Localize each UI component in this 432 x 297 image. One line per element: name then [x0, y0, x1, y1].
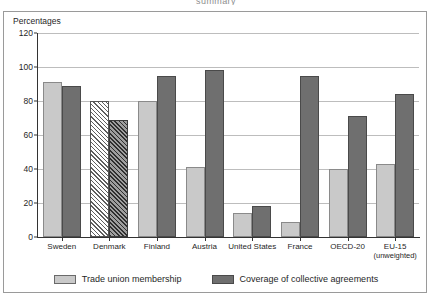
bar-collective-coverage[interactable] — [109, 120, 128, 237]
x-tick-mark — [205, 237, 206, 241]
bar-collective-coverage[interactable] — [62, 86, 81, 237]
bar-union-membership[interactable] — [233, 213, 252, 237]
y-tick-label: 120 — [19, 28, 33, 38]
bar-group — [276, 33, 324, 237]
x-tick-mark — [252, 237, 253, 241]
y-tick-mark — [34, 135, 37, 136]
y-tick-mark — [34, 101, 37, 102]
x-axis-label: Finland — [133, 242, 181, 260]
x-axis-label: OECD-20 — [324, 242, 372, 260]
chart-frame: Percentages 020406080100120 SwedenDenmar… — [3, 11, 427, 293]
y-tick-mark — [34, 33, 37, 34]
bar-group — [86, 33, 134, 237]
bar-union-membership[interactable] — [186, 167, 205, 237]
x-axis-label: France — [276, 242, 324, 260]
bar-union-membership[interactable] — [138, 101, 157, 237]
bar-collective-coverage[interactable] — [252, 206, 271, 237]
bar-group — [133, 33, 181, 237]
bar-union-membership[interactable] — [329, 169, 348, 237]
bar-group — [181, 33, 229, 237]
x-tick-mark — [348, 237, 349, 241]
x-axis-label-sub: (unweighted) — [371, 251, 419, 260]
bar-collective-coverage[interactable] — [300, 76, 319, 238]
y-tick-mark — [34, 237, 37, 238]
y-tick-mark — [34, 169, 37, 170]
bar-collective-coverage[interactable] — [395, 94, 414, 237]
x-axis-line — [37, 237, 420, 238]
legend-item[interactable]: Coverage of collective agreements — [212, 274, 379, 284]
x-axis-label: United States — [228, 242, 276, 260]
bar-group — [371, 33, 419, 237]
x-axis-labels: SwedenDenmarkFinlandAustriaUnited States… — [38, 242, 419, 260]
x-axis-label: Sweden — [38, 242, 86, 260]
bar-group — [229, 33, 277, 237]
x-tick-mark — [109, 237, 110, 241]
bar-collective-coverage[interactable] — [157, 76, 176, 238]
x-axis-label: Denmark — [86, 242, 134, 260]
legend-label: Trade union membership — [82, 274, 182, 284]
chart-legend: Trade union membershipCoverage of collec… — [4, 274, 428, 284]
y-tick-mark — [34, 67, 37, 68]
x-tick-mark — [62, 237, 63, 241]
bar-union-membership[interactable] — [281, 222, 300, 237]
y-tick-label: 60 — [24, 130, 33, 140]
x-axis-label: EU-15(unweighted) — [371, 242, 419, 260]
y-tick-label: 0 — [28, 232, 33, 242]
x-axis-label: Austria — [181, 242, 229, 260]
bar-union-membership[interactable] — [43, 82, 62, 237]
bar-union-membership[interactable] — [376, 164, 395, 237]
y-tick-mark — [34, 203, 37, 204]
y-tick-label: 20 — [24, 198, 33, 208]
legend-label: Coverage of collective agreements — [240, 274, 379, 284]
bar-collective-coverage[interactable] — [205, 70, 224, 237]
y-tick-label: 100 — [19, 62, 33, 72]
bar-group — [38, 33, 86, 237]
light-gray-swatch — [54, 275, 76, 284]
cut-off-header: summary — [0, 0, 432, 5]
x-tick-mark — [157, 237, 158, 241]
x-tick-mark — [395, 237, 396, 241]
dark-gray-swatch — [212, 275, 234, 284]
x-tick-mark — [300, 237, 301, 241]
bar-groups — [38, 33, 419, 237]
y-tick-label: 40 — [24, 164, 33, 174]
bar-group — [324, 33, 372, 237]
bar-collective-coverage[interactable] — [348, 116, 367, 237]
bar-union-membership[interactable] — [90, 101, 109, 237]
legend-item[interactable]: Trade union membership — [54, 274, 182, 284]
plot-area: 020406080100120 — [38, 33, 419, 237]
y-axis-title: Percentages — [13, 16, 61, 26]
y-tick-label: 80 — [24, 96, 33, 106]
